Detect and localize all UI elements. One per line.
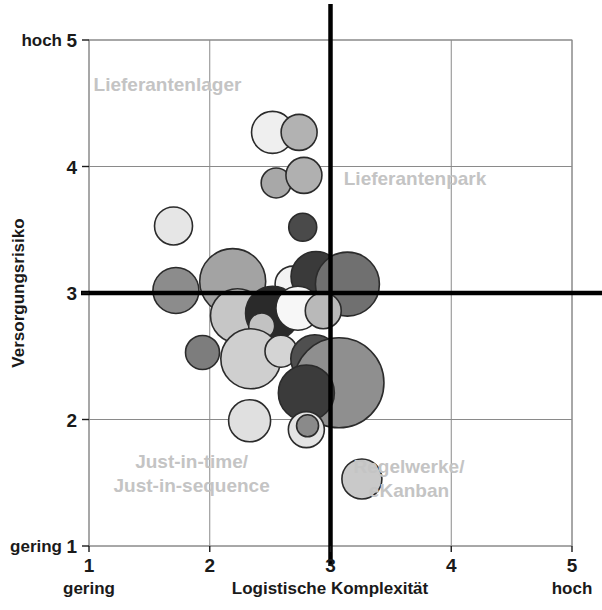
bubble-point [229,400,271,442]
bubble-point [153,267,199,313]
quadrant-label-line: Regelwerke/ [354,456,466,477]
quadrant-label-line: Lieferantenpark [344,168,487,189]
quadrant-label: Lieferantenpark [344,168,487,189]
y-axis-tick-label: 4 [66,157,77,178]
y-axis-low-anchor-label: gering [10,537,62,556]
quadrant-label: Lieferantenlager [94,74,242,95]
bubble-point [286,157,322,193]
quadrant-label-line: Lieferantenlager [94,74,242,95]
y-axis-high-anchor-label: hoch [21,31,62,50]
bubble-point [297,415,319,437]
x-axis-low-anchor-label: gering [63,579,115,598]
bubble-point [305,293,341,329]
y-axis-tick-label: 3 [66,283,77,304]
x-axis-tick-label: 5 [567,555,578,576]
y-axis-tick-label: 5 [66,30,77,51]
x-axis-tick-label: 3 [325,555,336,576]
quadrant-label-line: Just-in-sequence [114,475,270,496]
y-axis-tick-label: 2 [66,410,77,431]
bubble-point [281,114,317,150]
y-axis-title: Versorgungsrisiko [9,218,28,367]
x-axis-tick-label: 1 [84,555,95,576]
bubble-point [155,207,193,245]
y-axis-tick-label: 1 [66,536,77,557]
chart-canvas: 12345 12345 LieferantenlagerLieferantenp… [0,0,602,610]
x-axis-title: Logistische Komplexität [232,579,429,598]
x-axis-tick-label: 4 [446,555,457,576]
bubble-point [186,335,220,369]
bubble-chart-figure: 12345 12345 LieferantenlagerLieferantenp… [0,0,602,610]
bubble-point [289,213,317,241]
x-axis-high-anchor-label: hoch [552,579,593,598]
quadrant-label-line: eKanban [369,480,449,501]
x-axis-tick-label: 2 [204,555,215,576]
quadrant-label-line: Just-in-time/ [135,451,249,472]
